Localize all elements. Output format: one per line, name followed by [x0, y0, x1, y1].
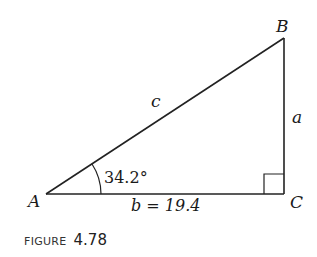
triangle-diagram: A B C c a 34.2° b = 19.4 FIGURE 4.78	[0, 0, 317, 257]
side-label-b: b = 19.4	[131, 196, 200, 215]
caption-word: FIGURE	[24, 235, 67, 248]
angle-arc-A	[92, 164, 101, 194]
right-angle-marker	[264, 174, 284, 194]
vertex-label-A: A	[26, 191, 40, 211]
side-b-text: b = 19.4	[131, 196, 200, 215]
vertex-label-C: C	[290, 192, 303, 212]
vertex-label-B: B	[275, 16, 289, 36]
angle-label-A: 34.2°	[104, 168, 148, 187]
side-c-hypotenuse	[46, 38, 284, 194]
side-label-a: a	[292, 107, 302, 127]
figure-caption: FIGURE 4.78	[24, 231, 107, 249]
caption-number: 4.78	[74, 231, 107, 249]
side-label-c: c	[151, 91, 161, 111]
